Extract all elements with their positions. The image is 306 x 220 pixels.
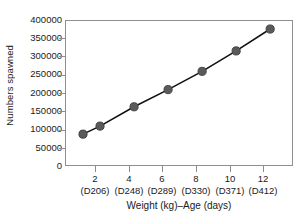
- data-point: [164, 86, 172, 94]
- y-tick-label: 0: [18, 161, 62, 171]
- y-tick-label: 350000: [18, 33, 62, 43]
- data-point: [198, 67, 206, 75]
- y-tick-label: 250000: [18, 69, 62, 79]
- x-axis-title: Weight (kg)–Age (days): [65, 200, 293, 211]
- y-tick-label: 50000: [18, 143, 62, 153]
- y-axis-title: Numbers spawned: [0, 0, 18, 170]
- x-axis-tick: [263, 166, 264, 172]
- plot-area: [65, 20, 293, 166]
- data-point: [130, 103, 138, 111]
- y-tick-label: 400000: [18, 15, 62, 25]
- data-point: [96, 122, 104, 130]
- data-point: [79, 130, 87, 138]
- y-tick-label: 200000: [18, 88, 62, 98]
- y-tick-label: 300000: [18, 51, 62, 61]
- series-line: [83, 29, 270, 134]
- x-tick-label: 12: [243, 173, 283, 184]
- x-tick-sublabel: (D412): [240, 185, 286, 196]
- data-series-canvas: [66, 21, 294, 167]
- y-axis-title-text: Numbers spawned: [4, 45, 15, 126]
- x-axis-tick: [162, 166, 163, 172]
- x-axis-tick: [95, 166, 96, 172]
- y-tick-label: 100000: [18, 124, 62, 134]
- data-point: [266, 25, 274, 33]
- data-point: [232, 47, 240, 55]
- y-axis-tick-labels: 400000 350000 300000 250000 200000 15000…: [18, 0, 62, 220]
- y-tick-label: 150000: [18, 106, 62, 116]
- x-axis-tick: [196, 166, 197, 172]
- x-axis-tick: [129, 166, 130, 172]
- chart-figure: Numbers spawned 400000 350000 300000 250…: [0, 0, 306, 220]
- x-axis-tick: [230, 166, 231, 172]
